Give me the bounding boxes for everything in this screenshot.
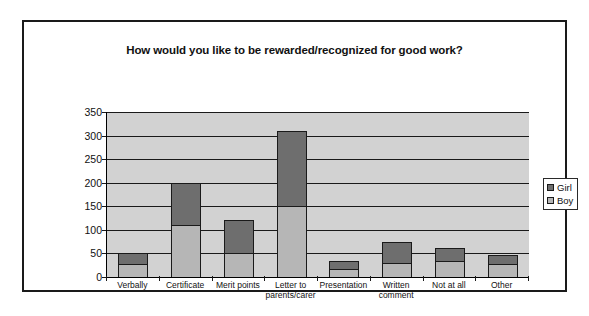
x-axis-category-label: Not at all <box>423 280 476 290</box>
y-axis-tick-label: 100 <box>68 225 102 236</box>
x-axis-category-label-line: parents/carer <box>264 290 317 300</box>
legend-swatch-icon <box>547 184 554 191</box>
x-axis-category-label: Merit points <box>212 280 265 290</box>
bar-segment-girl[interactable] <box>277 131 307 206</box>
x-axis-category-label: Letter toparents/carer <box>264 280 317 300</box>
bar-stack[interactable] <box>435 248 465 277</box>
y-axis: 050100150200250300350 <box>64 112 102 277</box>
y-axis-tick-label: 50 <box>68 248 102 259</box>
chart-title: How would you like to be rewarded/recogn… <box>24 44 565 56</box>
x-axis-category-label-line: Letter to <box>264 280 317 290</box>
x-axis-category-label-line: Merit points <box>212 280 265 290</box>
y-axis-tick-label: 350 <box>68 107 102 118</box>
bar-segment-boy[interactable] <box>382 263 412 277</box>
x-axis-tick-mark <box>317 276 318 281</box>
bar-segment-girl[interactable] <box>118 253 148 264</box>
gridline <box>107 159 529 160</box>
x-axis-category-label-line: comment <box>370 290 423 300</box>
bar-segment-girl[interactable] <box>382 242 412 263</box>
y-axis-tick-label: 200 <box>68 177 102 188</box>
y-axis-tick-label: 0 <box>68 272 102 283</box>
x-axis-tick-mark <box>212 276 213 281</box>
x-axis-category-label-line: Presentation <box>317 280 370 290</box>
x-axis-category-label: Verbally <box>106 280 159 290</box>
x-axis-tick-mark <box>264 276 265 281</box>
chart-legend: GirlBoy <box>543 178 578 210</box>
legend-item-girl[interactable]: Girl <box>547 181 573 194</box>
x-axis-category-label: Certificate <box>159 280 212 290</box>
x-axis-tick-mark <box>159 276 160 281</box>
gridline <box>107 112 529 113</box>
x-axis-category-label: Presentation <box>317 280 370 290</box>
x-axis-category-label: Writtencomment <box>370 280 423 300</box>
bar-stack[interactable] <box>224 220 254 277</box>
gridline <box>107 136 529 137</box>
bar-segment-girl[interactable] <box>435 248 465 261</box>
y-axis-tick-label: 150 <box>68 201 102 212</box>
legend-item-boy[interactable]: Boy <box>547 194 573 207</box>
x-axis-tick-mark <box>423 276 424 281</box>
bar-segment-boy[interactable] <box>277 206 307 277</box>
x-axis-tick-mark <box>475 276 476 281</box>
bar-segment-girl[interactable] <box>488 255 518 263</box>
x-axis-category-label-line: Written <box>370 280 423 290</box>
x-axis-category-labels: VerballyCertificateMerit pointsLetter to… <box>106 280 530 316</box>
bar-segment-boy[interactable] <box>488 264 518 277</box>
legend-swatch-icon <box>547 197 554 204</box>
bar-segment-boy[interactable] <box>329 269 359 277</box>
bar-stack[interactable] <box>382 242 412 277</box>
bar-segment-girl[interactable] <box>171 183 201 225</box>
y-axis-tick-label: 300 <box>68 130 102 141</box>
bar-segment-boy[interactable] <box>118 264 148 277</box>
x-axis-category-label-line: Other <box>475 280 528 290</box>
bar-segment-girl[interactable] <box>224 220 254 253</box>
bar-stack[interactable] <box>171 183 201 277</box>
x-axis-category-label-line: Verbally <box>106 280 159 290</box>
bar-stack[interactable] <box>277 131 307 277</box>
x-axis-category-label-line: Not at all <box>423 280 476 290</box>
bar-segment-boy[interactable] <box>435 261 465 277</box>
x-axis-tick-mark <box>106 276 107 281</box>
bar-segment-boy[interactable] <box>224 253 254 277</box>
x-axis-tick-mark <box>528 276 529 281</box>
x-axis-category-label-line: Certificate <box>159 280 212 290</box>
x-axis-category-label: Other <box>475 280 528 290</box>
bar-stack[interactable] <box>329 261 359 277</box>
legend-label: Boy <box>557 196 573 206</box>
legend-label: Girl <box>557 183 572 193</box>
bar-segment-girl[interactable] <box>329 261 359 269</box>
x-axis-tick-mark <box>370 276 371 281</box>
bar-segment-boy[interactable] <box>171 225 201 277</box>
bar-stack[interactable] <box>488 255 518 277</box>
plot-area <box>106 112 529 278</box>
y-axis-tick-label: 250 <box>68 154 102 165</box>
chart-frame: How would you like to be rewarded/recogn… <box>22 20 567 292</box>
bar-stack[interactable] <box>118 253 148 278</box>
